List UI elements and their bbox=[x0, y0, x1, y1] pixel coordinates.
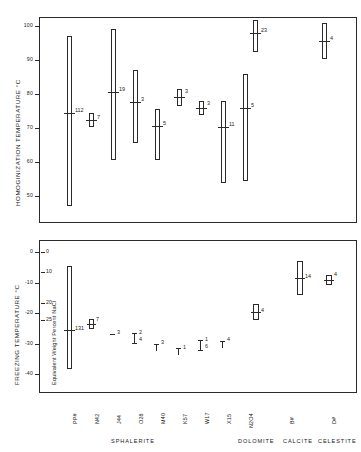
marker-bottom-x15 bbox=[220, 341, 225, 348]
count-label-bottom-o28-upper: 2 bbox=[139, 330, 142, 335]
nacl-tick-label-0: 0 bbox=[46, 249, 49, 254]
xaxis-label-w17: W17 bbox=[204, 412, 210, 424]
count-label-bottom-n42: 7 bbox=[96, 317, 99, 322]
freezing-panel bbox=[39, 240, 357, 393]
mean-marker-top-pp bbox=[64, 113, 75, 114]
bottom-tick-m40 bbox=[35, 374, 39, 375]
group-label-sphalerite: SPHALERITE bbox=[111, 438, 155, 444]
count-label-bottom-celestite: 4 bbox=[334, 272, 337, 277]
bottom-tick-0 bbox=[35, 252, 39, 253]
nacl-tick-10 bbox=[41, 272, 45, 273]
xaxis-label-calcite-sample: D# bbox=[331, 417, 337, 424]
range-bar-top-n2o4 bbox=[243, 74, 248, 181]
bottom-tick-label-m10: -10 bbox=[12, 280, 33, 285]
count-label-bottom-w17-lower: 6 bbox=[205, 344, 208, 349]
bottom-tick-label-0: 0 bbox=[12, 249, 33, 254]
top-tick-label-70: 70 bbox=[12, 125, 33, 130]
range-bar-bottom-pp bbox=[67, 266, 72, 369]
count-label-bottom-pp: 131 bbox=[75, 326, 84, 331]
top-tick-50 bbox=[35, 196, 39, 197]
marker-bottom-m40 bbox=[154, 344, 159, 351]
count-label-bottom-m40: 3 bbox=[161, 340, 164, 345]
range-bar-top-m40 bbox=[155, 109, 160, 160]
mean-marker-bottom-dolomite bbox=[251, 312, 261, 313]
count-label-bottom-dolomite: 4 bbox=[261, 308, 264, 313]
mean-marker-top-o28 bbox=[130, 102, 141, 103]
count-label-top-j44: 19 bbox=[119, 87, 125, 92]
top-axis-line bbox=[39, 17, 40, 223]
nacl-tick-25 bbox=[41, 320, 45, 321]
count-label-top-dolomite: 23 bbox=[261, 28, 267, 33]
bottom-tick-label-m40: -40 bbox=[12, 371, 33, 376]
xaxis-label-k57: K57 bbox=[182, 414, 188, 424]
count-label-top-k57: 3 bbox=[185, 89, 188, 94]
top-tick-100 bbox=[35, 26, 39, 27]
marker-bottom-k57 bbox=[176, 348, 181, 355]
marker-bottom-o28 bbox=[132, 333, 137, 344]
xaxis-label-x15: X15 bbox=[226, 414, 232, 424]
count-label-top-pp: 112 bbox=[75, 108, 84, 113]
top-tick-label-90: 90 bbox=[12, 57, 33, 62]
figure-root: HOMOGINIZATION TEMPERATURE °C 100 90 80 … bbox=[0, 0, 361, 452]
mean-marker-bottom-celestite bbox=[324, 280, 334, 281]
mean-marker-top-n2o4 bbox=[240, 108, 251, 109]
bottom-tick-m20 bbox=[35, 313, 39, 314]
count-label-top-calcite: 4 bbox=[330, 36, 333, 41]
xaxis-label-pp: PP# bbox=[72, 413, 78, 424]
count-label-top-n42: 7 bbox=[97, 115, 100, 120]
nacl-tick-label-10: 10 bbox=[46, 269, 52, 274]
nacl-tick-label-25: 25 bbox=[46, 317, 52, 322]
range-bar-top-o28 bbox=[133, 70, 138, 143]
mean-marker-top-calcite bbox=[319, 41, 330, 42]
top-tick-80 bbox=[35, 94, 39, 95]
bottom-axis-line bbox=[39, 240, 40, 393]
top-tick-90 bbox=[35, 60, 39, 61]
count-label-bottom-j44: 3 bbox=[117, 330, 120, 335]
top-tick-60 bbox=[35, 162, 39, 163]
count-label-bottom-w17-upper: 1 bbox=[205, 337, 208, 342]
group-label-dolomite: DOLOMITE bbox=[238, 438, 274, 444]
range-bar-top-dolomite bbox=[253, 20, 258, 52]
bottom-axis-title-nacl: Equivalent Weight Percent NaCl bbox=[51, 301, 57, 385]
xaxis-label-dolomite-sample: B# bbox=[289, 417, 295, 424]
count-label-top-m40: 5 bbox=[163, 121, 166, 126]
count-label-bottom-o28-lower: 4 bbox=[139, 337, 142, 342]
bottom-tick-label-m20: -20 bbox=[12, 310, 33, 315]
mean-marker-top-k57 bbox=[174, 97, 185, 98]
top-tick-label-50: 50 bbox=[12, 193, 33, 198]
count-label-top-x15: 11 bbox=[229, 122, 235, 127]
top-tick-label-100: 100 bbox=[12, 23, 33, 28]
bottom-tick-label-m30: -30 bbox=[12, 341, 33, 346]
xaxis-label-n2o4: N2O4 bbox=[248, 413, 254, 428]
nacl-tick-label-20: 20 bbox=[46, 300, 52, 305]
xaxis-label-j44: J44 bbox=[116, 415, 122, 424]
bottom-axis-title: FREEZING TEMPERATURE °C bbox=[13, 285, 20, 386]
mean-marker-top-n42 bbox=[86, 120, 97, 121]
mean-marker-bottom-n42 bbox=[87, 324, 96, 325]
mean-marker-bottom-pp bbox=[64, 330, 75, 331]
mean-marker-top-j44 bbox=[108, 92, 119, 93]
top-axis-title: HOMOGINIZATION TEMPERATURE °C bbox=[14, 79, 21, 206]
group-label-celestite: CELESTITE bbox=[318, 438, 357, 444]
range-bar-top-j44 bbox=[111, 29, 116, 160]
bottom-tick-m30 bbox=[35, 344, 39, 345]
range-bar-top-x15 bbox=[221, 101, 226, 183]
bottom-tick-m10 bbox=[35, 283, 39, 284]
mean-marker-top-x15 bbox=[218, 127, 229, 128]
count-label-top-w17: 3 bbox=[207, 101, 210, 106]
mean-marker-top-w17 bbox=[196, 108, 207, 109]
count-label-top-n2o4: 5 bbox=[251, 103, 254, 108]
count-label-bottom-x15: 4 bbox=[227, 337, 230, 342]
count-label-bottom-k57: 1 bbox=[183, 345, 186, 350]
mean-marker-top-dolomite bbox=[250, 33, 261, 34]
range-bar-top-pp bbox=[67, 36, 72, 206]
top-tick-label-60: 60 bbox=[12, 159, 33, 164]
mean-marker-top-m40 bbox=[152, 126, 163, 127]
marker-bottom-j44 bbox=[110, 334, 115, 336]
nacl-tick-0 bbox=[41, 252, 45, 253]
top-tick-label-80: 80 bbox=[12, 91, 33, 96]
nacl-tick-20 bbox=[41, 303, 45, 304]
xaxis-label-n42: N42 bbox=[94, 414, 100, 425]
mean-marker-bottom-calcite bbox=[295, 278, 305, 279]
group-label-calcite: CALCITE bbox=[283, 438, 313, 444]
